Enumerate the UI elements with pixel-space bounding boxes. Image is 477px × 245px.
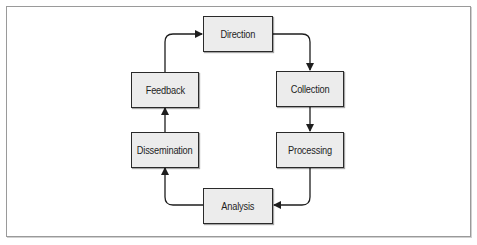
edge-analysis-dissemination [165,168,203,205]
node-analysis: Analysis [203,188,273,224]
node-label: Analysis [222,200,255,212]
node-label: Direction [221,28,256,40]
node-label: Collection [291,83,330,95]
node-direction: Direction [203,16,273,52]
node-dissemination: Dissemination [131,132,199,168]
edge-processing-analysis [274,167,310,205]
node-collection: Collection [276,71,344,107]
node-label: Feedback [145,84,184,96]
edge-feedback-direction [165,34,202,72]
node-processing: Processing [276,132,344,168]
node-feedback: Feedback [131,72,199,108]
node-label: Processing [288,144,332,156]
node-label: Dissemination [137,144,193,156]
edge-direction-collection [273,34,310,70]
